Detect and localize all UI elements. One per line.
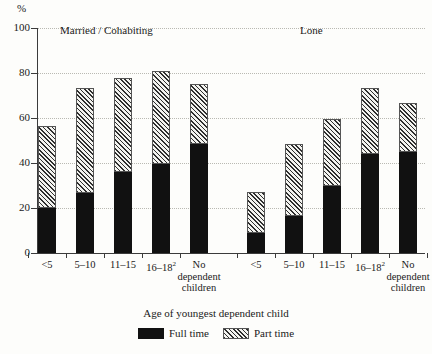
bar-segment-part-time	[152, 71, 170, 164]
gridline-80	[38, 73, 425, 74]
y-tick-label-60: 60	[0, 112, 30, 123]
y-tick-label-100: 100	[0, 22, 30, 33]
x-tick-label-line1: No	[376, 259, 432, 271]
y-tick-mark-100	[31, 28, 37, 29]
x-axis-line	[37, 253, 425, 254]
bar-0-4	[190, 84, 208, 253]
x-tick-label-line1: No	[167, 259, 231, 271]
x-tick-label-9: Nodependentchildren	[376, 259, 432, 294]
y-axis-unit-label: %	[17, 2, 26, 14]
bar-segment-part-time	[38, 126, 56, 208]
bar-1-2	[323, 119, 341, 253]
x-axis-caption: Age of youngest dependent child	[0, 307, 432, 319]
bar-0-2	[114, 78, 132, 254]
legend-item-part-time: Part time	[223, 327, 294, 339]
y-tick-mark-40	[31, 163, 37, 164]
x-tick-label-line3: children	[167, 282, 231, 294]
y-tick-label-0: 0	[0, 247, 30, 258]
bar-0-3	[152, 71, 170, 253]
bar-segment-part-time	[323, 119, 341, 185]
bar-segment-part-time	[285, 144, 303, 216]
bar-segment-part-time	[399, 103, 417, 151]
x-tick-label-line2: dependent	[376, 271, 432, 283]
bar-segment-full-time	[361, 154, 379, 253]
x-tick-label-line2: dependent	[167, 271, 231, 283]
x-tick-mark-1	[66, 253, 67, 258]
bar-segment-full-time	[76, 193, 94, 253]
bar-segment-full-time	[399, 152, 417, 253]
x-tick-mark-10	[427, 253, 428, 258]
bar-1-1	[285, 144, 303, 253]
bar-segment-full-time	[38, 208, 56, 253]
legend-swatch-full-time	[138, 328, 164, 339]
x-tick-mark-9	[389, 253, 390, 258]
y-tick-mark-80	[31, 73, 37, 74]
y-tick-label-80: 80	[0, 67, 30, 78]
bar-0-0	[38, 126, 56, 253]
x-tick-mark-5	[237, 253, 238, 258]
bar-1-3	[361, 88, 379, 253]
bar-segment-full-time	[247, 233, 265, 253]
legend-label-full-time: Full time	[169, 327, 209, 339]
bar-segment-part-time	[247, 192, 265, 233]
legend-swatch-part-time	[223, 328, 249, 339]
bar-segment-full-time	[190, 144, 208, 253]
group-title-married: Married / Cohabiting	[60, 24, 153, 36]
x-tick-label-4: Nodependentchildren	[167, 259, 231, 294]
bar-segment-full-time	[152, 164, 170, 253]
x-tick-mark-7	[313, 253, 314, 258]
y-tick-mark-60	[31, 118, 37, 119]
x-tick-mark-8	[351, 253, 352, 258]
y-tick-label-20: 20	[0, 202, 30, 213]
x-tick-mark-0	[28, 253, 29, 258]
group-title-lone: Lone	[300, 24, 323, 36]
x-tick-mark-4	[180, 253, 181, 258]
y-tick-mark-0	[31, 253, 37, 254]
x-tick-mark-2	[104, 253, 105, 258]
x-tick-mark-3	[142, 253, 143, 258]
bar-0-1	[76, 88, 94, 253]
legend-label-part-time: Part time	[254, 327, 294, 339]
bar-1-0	[247, 192, 265, 253]
y-tick-mark-20	[31, 208, 37, 209]
bar-segment-part-time	[190, 84, 208, 144]
bar-segment-full-time	[285, 216, 303, 253]
chart-root: % 020406080100 Married / Cohabiting Lone…	[0, 0, 432, 354]
bar-1-4	[399, 103, 417, 253]
legend-item-full-time: Full time	[138, 327, 209, 339]
bar-segment-full-time	[323, 186, 341, 254]
y-tick-label-40: 40	[0, 157, 30, 168]
bar-segment-part-time	[114, 78, 132, 173]
chart-legend: Full time Part time	[0, 327, 432, 339]
bar-segment-part-time	[361, 88, 379, 154]
x-tick-mark-6	[275, 253, 276, 258]
bar-segment-full-time	[114, 172, 132, 253]
bar-segment-part-time	[76, 88, 94, 194]
x-tick-label-line3: children	[376, 282, 432, 294]
